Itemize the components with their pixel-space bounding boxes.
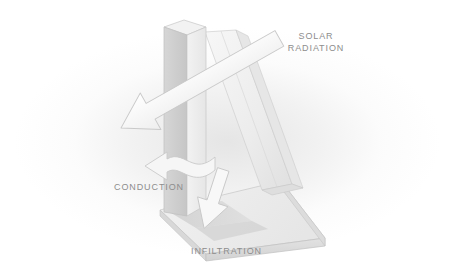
label-solar-line2: RADIATION bbox=[274, 42, 358, 54]
label-conduction: CONDUCTION bbox=[114, 181, 184, 193]
diagram-canvas: SOLAR RADIATION CONDUCTION INFILTRATION bbox=[0, 0, 464, 273]
building-illustration bbox=[0, 0, 464, 273]
column-front-face bbox=[187, 27, 206, 216]
label-solar-line1: SOLAR bbox=[274, 30, 358, 42]
label-solar-radiation: SOLAR RADIATION bbox=[274, 30, 358, 54]
label-infiltration: INFILTRATION bbox=[191, 245, 262, 257]
